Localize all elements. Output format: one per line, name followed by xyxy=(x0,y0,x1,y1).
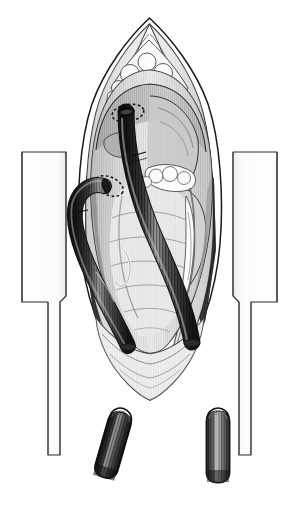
illustration-stage: Median sternotomy with bicaval cannulati… xyxy=(0,0,299,508)
tube-segment-right xyxy=(206,408,230,483)
surgical-illustration: Median sternotomy with bicaval cannulati… xyxy=(0,0,299,508)
